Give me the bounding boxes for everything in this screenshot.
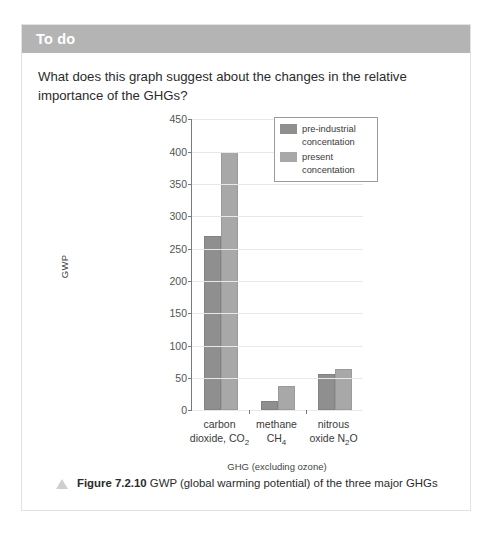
y-tick-label: 400 [169, 146, 187, 158]
x-tick-mark [306, 410, 307, 414]
legend-item: present concentation [280, 151, 371, 176]
y-tick-mark [188, 346, 192, 347]
panel-body: What does this graph suggest about the c… [22, 53, 470, 471]
y-tick-label: 50 [175, 372, 187, 384]
x-axis-categories: carbondioxide, CO2methaneCH4nitrousoxide… [191, 417, 363, 461]
panel-header: To do [22, 25, 470, 53]
grid-line [192, 216, 363, 217]
legend-swatch-present [280, 152, 297, 162]
question-text: What does this graph suggest about the c… [38, 67, 448, 105]
y-tick-mark [188, 216, 192, 217]
legend-item: pre-industrial concentation [280, 123, 371, 148]
y-tick-mark [188, 119, 192, 120]
grid-line [192, 249, 363, 250]
grid-line [192, 184, 363, 185]
y-axis-label: GWP [59, 237, 70, 297]
bar [318, 374, 335, 410]
figure-caption: Figure 7.2.10 GWP (global warming potent… [38, 476, 454, 492]
to-do-panel: To do What does this graph suggest about… [21, 24, 471, 511]
y-tick-label: 300 [169, 210, 187, 222]
y-tick-mark [188, 378, 192, 379]
y-tick-label: 100 [169, 340, 187, 352]
y-tick-mark [188, 152, 192, 153]
y-tick-label: 0 [181, 404, 187, 416]
bar-group [192, 119, 249, 410]
y-tick-label: 350 [169, 178, 187, 190]
legend-label-present: present concentation [302, 151, 371, 176]
legend-swatch-pre-industrial [280, 124, 297, 134]
x-category-label: nitrousoxide N2O [298, 417, 370, 449]
y-tick-label: 150 [169, 307, 187, 319]
bar [204, 236, 221, 411]
grid-line [192, 313, 363, 314]
y-tick-mark [188, 313, 192, 314]
x-axis-label: GHG (excluding ozone) [191, 461, 363, 472]
y-tick-label: 250 [169, 243, 187, 255]
gwp-bar-chart: GWP 050100150200250300350400450 carbondi… [38, 111, 456, 471]
grid-line [192, 378, 363, 379]
bar [261, 401, 278, 411]
caption-body: GWP (global warming potential) of the th… [147, 477, 438, 489]
grid-line [192, 281, 363, 282]
chart-canvas: GWP 050100150200250300350400450 carbondi… [38, 111, 456, 471]
legend-label-pre-industrial: pre-industrial concentation [302, 123, 371, 148]
bar [335, 369, 352, 410]
caption-text: Figure 7.2.10 GWP (global warming potent… [77, 476, 438, 492]
y-tick-mark [188, 184, 192, 185]
bar [278, 386, 295, 410]
y-tick-mark [188, 281, 192, 282]
chart-legend: pre-industrial concentation present conc… [274, 117, 378, 182]
panel-header-title: To do [36, 31, 75, 47]
grid-line [192, 410, 363, 411]
y-tick-mark [188, 410, 192, 411]
grid-line [192, 346, 363, 347]
x-tick-mark [249, 410, 250, 414]
figure-number: Figure 7.2.10 [77, 477, 147, 489]
y-tick-label: 200 [169, 275, 187, 287]
triangle-icon [56, 479, 68, 489]
y-tick-label: 450 [169, 113, 187, 125]
y-tick-mark [188, 249, 192, 250]
